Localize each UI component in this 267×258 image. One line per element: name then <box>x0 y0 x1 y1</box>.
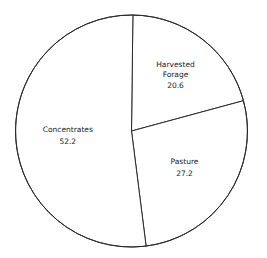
data-label-value-concentrates: 52.2 <box>59 137 76 146</box>
pie-chart: HarvestedForage20.6Pasture27.2Concentrat… <box>0 0 267 258</box>
data-label-value-harvested-forage: 20.6 <box>167 81 184 90</box>
data-label-concentrates: Concentrates <box>43 125 93 134</box>
data-label-pasture: Pasture <box>171 157 199 166</box>
data-label-harvested-forage: Harvested <box>156 60 195 69</box>
data-label-harvested-forage: Forage <box>163 70 189 79</box>
data-label-value-pasture: 27.2 <box>176 169 193 178</box>
